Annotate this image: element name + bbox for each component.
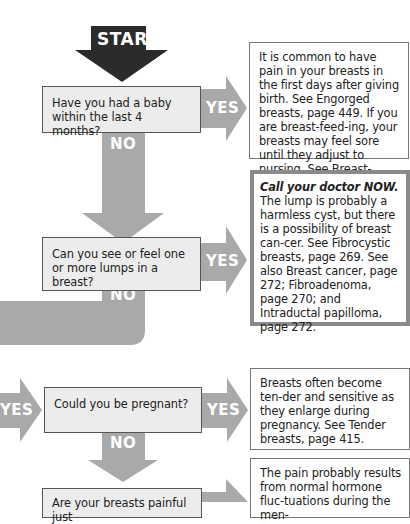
q1-no-label: NO bbox=[110, 135, 136, 153]
question-box-baby: Have you had a baby within the last 4 mo… bbox=[42, 86, 201, 133]
question-box-lumps: Can you see or feel one or more lumps in… bbox=[42, 237, 201, 291]
answer-box-after-birth: It is common to have pain in your breast… bbox=[249, 42, 409, 159]
answer-text: Breasts often become ten-der and sensiti… bbox=[260, 376, 394, 446]
question-text: Could you be pregnant? bbox=[54, 397, 188, 411]
question-box-pregnant: Could you be pregnant? bbox=[44, 387, 202, 433]
answer-box-pregnancy: Breasts often become ten-der and sensiti… bbox=[250, 368, 410, 450]
answer-text: The lump is probably a harmless cyst, bu… bbox=[260, 194, 397, 334]
start-label: START bbox=[97, 29, 159, 49]
question-box-painful: Are your breasts painful just bbox=[42, 488, 202, 518]
question-text: Have you had a baby within the last 4 mo… bbox=[52, 96, 171, 138]
q1-yes-label: YES bbox=[206, 99, 239, 117]
call-doctor-warning: Call your doctor NOW. bbox=[260, 180, 401, 194]
question-text: Can you see or feel one or more lumps in… bbox=[52, 247, 185, 289]
q2-yes-label: YES bbox=[206, 252, 239, 270]
question-text: Are your breasts painful just bbox=[52, 496, 186, 524]
q3-incoming-yes-label: YES bbox=[0, 401, 33, 419]
answer-box-hormones: The pain probably results from normal ho… bbox=[250, 458, 410, 518]
q3-yes-label: YES bbox=[207, 401, 240, 419]
q3-no-label: NO bbox=[110, 434, 136, 452]
q4-yes-arrow bbox=[202, 479, 248, 502]
answer-box-lumps: Call your doctor NOW. The lump is probab… bbox=[250, 170, 410, 326]
answer-text: The pain probably results from normal ho… bbox=[260, 466, 401, 522]
